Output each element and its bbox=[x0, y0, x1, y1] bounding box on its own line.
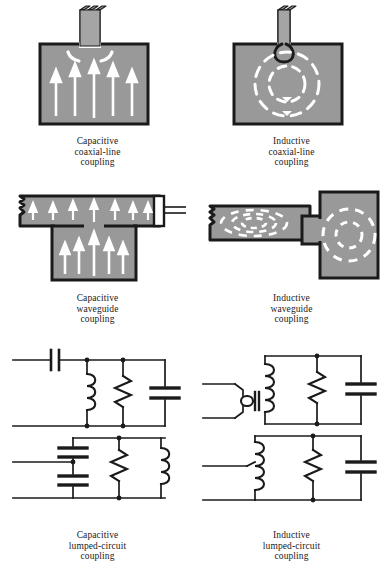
caption-line-3: coupling bbox=[0, 314, 195, 325]
inductive-waveguide-diagram bbox=[202, 178, 382, 290]
panel-caption: Capacitive waveguide coupling bbox=[0, 293, 195, 325]
panel-caption: Capacitive lumped-circuit coupling bbox=[0, 530, 195, 562]
caption-line-3: coupling bbox=[194, 314, 389, 325]
node-dot bbox=[310, 498, 315, 503]
series-capacitor-tank-circuit bbox=[13, 350, 179, 428]
caption-line-1: Inductive bbox=[194, 136, 389, 147]
caption-line-1: Inductive bbox=[194, 293, 389, 304]
capacitive-lumped-circuit-diagram bbox=[5, 338, 191, 528]
caption-line-2: waveguide bbox=[0, 304, 195, 315]
shunt-resistor-icon bbox=[309, 356, 325, 424]
waveguide-end-plate bbox=[154, 196, 164, 226]
node-dot bbox=[120, 358, 125, 363]
capacitive-divider-tank-circuit bbox=[13, 436, 169, 501]
shunt-capacitor-icon bbox=[347, 436, 375, 500]
caption-line-1: Capacitive bbox=[0, 530, 195, 541]
cavity-body bbox=[320, 192, 378, 278]
node-dot bbox=[120, 424, 125, 429]
node-dot bbox=[84, 358, 89, 363]
primary-lead-bottom bbox=[235, 406, 243, 418]
inductive-coaxial-line-diagram bbox=[212, 4, 372, 132]
shunt-capacitor-icon bbox=[151, 360, 179, 426]
tapped-inductor-tank-circuit bbox=[203, 434, 375, 503]
output-coax-lines bbox=[164, 207, 186, 213]
caption-line-1: Capacitive bbox=[0, 293, 195, 304]
panel-inductive-waveguide: Inductive waveguide coupling bbox=[194, 178, 389, 325]
caption-line-2: coaxial-line bbox=[0, 147, 195, 158]
node-dot bbox=[70, 460, 75, 465]
probe-shaft bbox=[80, 10, 100, 46]
node-dot bbox=[310, 434, 315, 439]
transformer-coupled-tank-circuit bbox=[203, 354, 375, 427]
tap-lead bbox=[247, 462, 255, 466]
node-dot bbox=[116, 436, 121, 441]
waveguide-body bbox=[20, 196, 160, 226]
panel-capacitive-coaxial-line: Capacitive coaxial-line coupling bbox=[0, 4, 195, 168]
shunt-capacitor-icon bbox=[347, 356, 375, 424]
shunt-inductor-icon bbox=[87, 360, 95, 426]
panel-caption: Inductive coaxial-line coupling bbox=[194, 136, 389, 168]
caption-line-3: coupling bbox=[0, 157, 195, 168]
caption-line-3: coupling bbox=[194, 157, 389, 168]
shunt-inductor-icon bbox=[161, 438, 169, 498]
caption-line-2: waveguide bbox=[194, 304, 389, 315]
panel-capacitive-waveguide: Capacitive waveguide coupling bbox=[0, 178, 195, 325]
node-dot bbox=[84, 424, 89, 429]
caption-line-3: coupling bbox=[194, 551, 389, 562]
caption-line-2: lumped-circuit bbox=[194, 541, 389, 552]
panel-caption: Inductive lumped-circuit coupling bbox=[194, 530, 389, 562]
capacitive-waveguide-diagram bbox=[8, 178, 188, 290]
coupling-methods-figure: Capacitive coaxial-line coupling bbox=[0, 0, 389, 572]
transformer-secondary-icon bbox=[265, 356, 274, 424]
transformer-primary-icon bbox=[241, 396, 253, 406]
capacitive-divider-icon bbox=[59, 438, 87, 498]
panel-capacitive-lumped-circuit: Capacitive lumped-circuit coupling bbox=[0, 338, 195, 562]
tapped-inductor-icon bbox=[247, 436, 264, 500]
node-dot bbox=[314, 422, 319, 427]
caption-line-2: lumped-circuit bbox=[0, 541, 195, 552]
panel-inductive-coaxial-line: Inductive coaxial-line coupling bbox=[194, 4, 389, 168]
primary-lead-top bbox=[235, 384, 243, 396]
series-capacitor-icon bbox=[51, 350, 59, 370]
probe-shaft bbox=[278, 10, 290, 46]
node-dot bbox=[116, 496, 121, 501]
panel-caption: Inductive waveguide coupling bbox=[194, 293, 389, 325]
panel-caption: Capacitive coaxial-line coupling bbox=[0, 136, 195, 168]
shunt-resistor-icon bbox=[115, 360, 131, 426]
shunt-resistor-icon bbox=[111, 438, 127, 498]
caption-line-2: coaxial-line bbox=[194, 147, 389, 158]
panel-inductive-lumped-circuit: Inductive lumped-circuit coupling bbox=[194, 338, 389, 562]
transformer-core-icon bbox=[255, 392, 259, 410]
inductive-lumped-circuit-diagram bbox=[199, 338, 385, 528]
caption-line-3: coupling bbox=[0, 551, 195, 562]
node-dot bbox=[314, 354, 319, 359]
shunt-resistor-icon bbox=[305, 436, 321, 500]
caption-line-1: Capacitive bbox=[0, 136, 195, 147]
capacitive-coaxial-line-diagram bbox=[18, 4, 178, 132]
caption-line-1: Inductive bbox=[194, 530, 389, 541]
